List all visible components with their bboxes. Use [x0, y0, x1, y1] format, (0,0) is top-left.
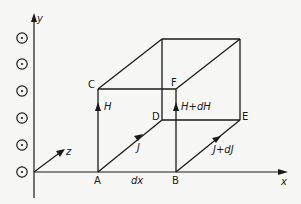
vector-J-plus-dJ: J+dJ: [211, 136, 234, 155]
dx-label: dx: [131, 175, 143, 186]
z-axis-label: z: [65, 146, 72, 157]
x-axis-label: x: [280, 176, 287, 187]
vertex-A-label: A: [94, 175, 101, 186]
vector-H-plus-dH-label: H+dH: [181, 101, 211, 112]
arrow-diagonal-icon: [134, 134, 143, 141]
out-of-page-icon: [17, 113, 27, 123]
x-axis: x: [34, 169, 288, 187]
vertex-labels: A B C D E F: [88, 77, 248, 186]
out-of-page-icon: [17, 167, 27, 177]
arrow-up-icon: [173, 102, 179, 111]
y-axis-label: y: [36, 13, 44, 24]
vertex-F-label: F: [171, 77, 177, 88]
out-of-page-icon: [17, 86, 27, 96]
out-of-page-markers: [17, 33, 27, 177]
vector-J-label: J: [135, 142, 140, 153]
out-of-page-icon: [17, 140, 27, 150]
x-axis-arrowhead-icon: [278, 169, 288, 175]
y-axis: y: [31, 13, 44, 198]
vector-H-plus-dH: H+dH: [173, 101, 211, 112]
vertex-C-label: C: [88, 79, 95, 90]
arrow-up-icon: [95, 102, 101, 111]
vertex-E-label: E: [242, 111, 248, 122]
vector-J-plus-dJ-label: J+dJ: [211, 144, 234, 155]
z-axis: z: [34, 146, 72, 172]
vertex-D-label: D: [152, 111, 160, 122]
cube-field-diagram: y x z H H+dH J: [0, 0, 301, 204]
vector-H-label: H: [104, 101, 112, 112]
z-axis-arrowhead-icon: [56, 149, 65, 157]
vertex-B-label: B: [172, 175, 179, 186]
out-of-page-icon: [17, 59, 27, 69]
out-of-page-icon: [17, 33, 27, 43]
